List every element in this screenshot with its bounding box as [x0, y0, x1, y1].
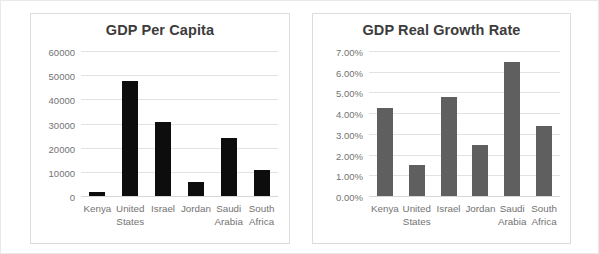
x-axis-category-label: Saudi Arabia [212, 202, 245, 228]
y-axis-tick-label: 3.00% [336, 129, 363, 140]
chart-card-gdp-real-growth-rate: GDP Real Growth Rate 0.00%1.00%2.00%3.00… [312, 13, 571, 244]
x-axis-category-label: Israel [147, 202, 180, 228]
x-axis-category-label: Saudi Arabia [496, 202, 528, 228]
y-axis-tick-label: 60000 [49, 47, 75, 58]
y-axis-tick-label: 2.00% [336, 150, 363, 161]
x-axis-category-label: South Africa [245, 202, 278, 228]
y-axis-tick-label: 1.00% [336, 171, 363, 182]
bar [504, 62, 520, 196]
bar [472, 145, 488, 196]
plot-area-gdp-per-capita: 0100002000030000400005000060000 KenyaUni… [81, 52, 278, 197]
x-axis-line-gdp-per-capita [81, 196, 278, 197]
chart-title-gdp-real-growth-rate: GDP Real Growth Rate [313, 22, 570, 38]
x-axis-category-label: Kenya [81, 202, 114, 228]
bar [441, 97, 457, 196]
y-axis-tick-label: 5.00% [336, 88, 363, 99]
y-axis-tick-label: 4.00% [336, 109, 363, 120]
bar [536, 126, 552, 196]
x-axis-category-label: Jordan [464, 202, 496, 228]
bar-column [245, 52, 278, 196]
y-axis-tick-label: 7.00% [336, 47, 363, 58]
bar [377, 108, 393, 196]
bar-column [179, 52, 212, 196]
bar-column [369, 52, 401, 196]
x-axis-line-gdp-real-growth-rate [369, 196, 560, 197]
bar [221, 138, 237, 196]
bar [155, 122, 171, 196]
x-axis-category-label: United States [114, 202, 147, 228]
x-axis-category-label: Kenya [369, 202, 401, 228]
charts-page: GDP Per Capita 0100002000030000400005000… [0, 0, 599, 254]
y-axis-tick-label: 10000 [49, 167, 75, 178]
y-axis-tick-label: 6.00% [336, 67, 363, 78]
bar-column [114, 52, 147, 196]
y-axis-tick-label: 20000 [49, 143, 75, 154]
bar [122, 81, 138, 196]
y-axis-tick-label: 50000 [49, 71, 75, 82]
bar-column [147, 52, 180, 196]
bars-gdp-real-growth-rate [369, 52, 560, 196]
bar-column [81, 52, 114, 196]
bar [188, 182, 204, 196]
y-axis-tick-label: 0 [70, 192, 75, 203]
bar-column [433, 52, 465, 196]
bar-column [464, 52, 496, 196]
bar-column [496, 52, 528, 196]
x-axis-labels-gdp-real-growth-rate: KenyaUnited StatesIsraelJordanSaudi Arab… [369, 202, 560, 228]
chart-card-gdp-per-capita: GDP Per Capita 0100002000030000400005000… [30, 13, 290, 244]
chart-title-gdp-per-capita: GDP Per Capita [31, 22, 289, 38]
x-axis-category-label: United States [401, 202, 433, 228]
x-axis-category-label: South Africa [528, 202, 560, 228]
bars-gdp-per-capita [81, 52, 278, 196]
bar-column [528, 52, 560, 196]
x-axis-category-label: Jordan [179, 202, 212, 228]
x-axis-category-label: Israel [433, 202, 465, 228]
bar-column [212, 52, 245, 196]
y-axis-tick-label: 40000 [49, 95, 75, 106]
bar [254, 170, 270, 196]
bar-column [401, 52, 433, 196]
bar [409, 165, 425, 196]
y-axis-tick-label: 30000 [49, 119, 75, 130]
bar [89, 192, 105, 196]
plot-area-gdp-real-growth-rate: 0.00%1.00%2.00%3.00%4.00%5.00%6.00%7.00%… [369, 52, 560, 197]
y-axis-tick-label: 0.00% [336, 192, 363, 203]
x-axis-labels-gdp-per-capita: KenyaUnited StatesIsraelJordanSaudi Arab… [81, 202, 278, 228]
